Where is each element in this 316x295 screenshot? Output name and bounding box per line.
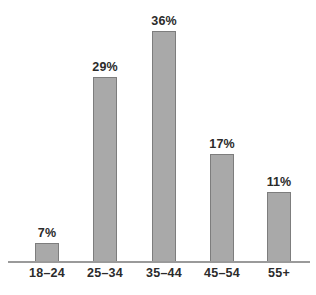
bar-value-label: 11% [253, 175, 305, 189]
bar-group: 17% [210, 0, 234, 262]
x-axis-tick-label: 45–54 [192, 266, 252, 280]
bar-value-label: 29% [79, 60, 131, 74]
x-axis-labels: 18–24 25–34 35–44 45–54 55+ [0, 266, 316, 290]
x-axis-tick-label: 25–34 [75, 266, 135, 280]
bar[interactable] [267, 192, 291, 262]
x-axis-tick-label: 18–24 [17, 266, 77, 280]
x-axis-tick-label: 35–44 [134, 266, 194, 280]
bar-chart: 7% 29% 36% 17% 11% 18–24 25–34 35–44 45–… [0, 0, 316, 295]
bar-group: 36% [152, 0, 176, 262]
bar-group: 7% [35, 0, 59, 262]
x-axis-tick-label: 55+ [249, 266, 309, 280]
plot-area: 7% 29% 36% 17% 11% [0, 0, 316, 262]
bar-value-label: 7% [21, 226, 73, 240]
bar-value-label: 36% [138, 14, 190, 28]
bar[interactable] [35, 243, 59, 262]
bar[interactable] [210, 154, 234, 262]
bar-group: 11% [267, 0, 291, 262]
bar[interactable] [152, 31, 176, 262]
x-axis-line [8, 261, 310, 263]
bar-group: 29% [93, 0, 117, 262]
bar-value-label: 17% [196, 137, 248, 151]
bar[interactable] [93, 77, 117, 262]
